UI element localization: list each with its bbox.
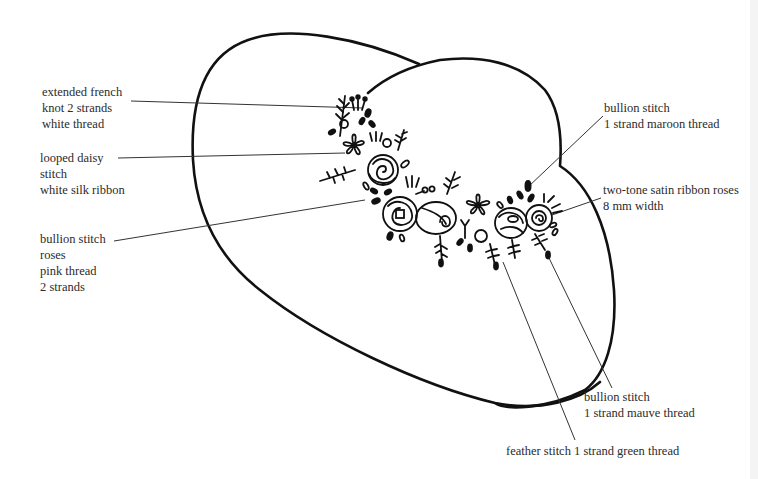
label-line: bullion stitch [40, 231, 106, 247]
label-looped-daisy: looped daisy stitch white silk ribbon [40, 150, 125, 198]
leader-bullion-roses [114, 200, 365, 241]
label-bullion-maroon: bullion stitch 1 strand maroon thread [604, 100, 720, 132]
label-line: pink thread [40, 263, 106, 279]
rose-right-1 [495, 208, 527, 238]
label-line: two-tone satin ribbon roses [603, 182, 739, 198]
rose-lower-left [383, 197, 417, 231]
leader-bullion-maroon [528, 116, 603, 187]
label-line: 1 strand maroon thread [604, 116, 720, 132]
label-bullion-roses: bullion stitch roses pink thread 2 stran… [40, 231, 106, 295]
rose-right-2 [526, 205, 552, 231]
label-line: 8 mm width [603, 198, 739, 214]
leader-daisy [118, 153, 345, 158]
leader-bullion-mauve [549, 258, 612, 388]
leader-french-knot [131, 101, 363, 108]
floral-spray [320, 95, 562, 269]
label-line: bullion stitch [584, 389, 695, 405]
label-line: 1 strand mauve thread [584, 405, 695, 421]
daisy-flower [344, 135, 364, 155]
right-oval-outline [368, 59, 614, 408]
label-line: roses [40, 247, 106, 263]
label-bullion-mauve: bullion stitch 1 strand mauve thread [584, 389, 695, 421]
label-line: 2 strands [40, 279, 106, 295]
label-line: bullion stitch [604, 100, 720, 116]
label-french-knot: extended french knot 2 strands white thr… [42, 84, 122, 132]
rose-upper [368, 155, 398, 185]
label-line: white thread [42, 116, 122, 132]
leader-lines [114, 101, 612, 440]
diagram-canvas: extended french knot 2 strands white thr… [0, 0, 758, 479]
star-flower [467, 195, 490, 215]
label-line: knot 2 strands [42, 100, 122, 116]
label-line: stitch [40, 166, 125, 182]
label-line: white silk ribbon [40, 182, 125, 198]
label-satin-ribbon: two-tone satin ribbon roses 8 mm width [603, 182, 739, 214]
rose-swirl [416, 202, 456, 234]
label-line: feather stitch 1 strand green thread [506, 443, 679, 459]
label-line: looped daisy [40, 150, 125, 166]
label-line: extended french [42, 84, 122, 100]
label-feather-stitch: feather stitch 1 strand green thread [506, 443, 679, 459]
